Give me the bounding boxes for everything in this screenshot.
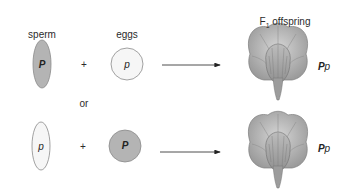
sperm-allele-1: P — [39, 59, 46, 70]
sperm-allele-2: p — [38, 141, 44, 152]
egg-allele-1: p — [124, 59, 130, 70]
flower-icon-2 — [248, 111, 307, 188]
plus-sign-2: + — [80, 141, 86, 152]
eggs-label: eggs — [116, 29, 138, 40]
offspring-title: F1 offspring — [260, 16, 311, 29]
egg-allele-2: P — [122, 140, 129, 151]
plus-sign-1: + — [81, 59, 87, 70]
flower-icon-1 — [248, 23, 307, 100]
or-label: or — [80, 98, 89, 109]
offspring-genotype-2: Pp — [318, 143, 330, 154]
offspring-genotype-1: Pp — [318, 61, 330, 72]
sperm-label: sperm — [28, 29, 56, 40]
